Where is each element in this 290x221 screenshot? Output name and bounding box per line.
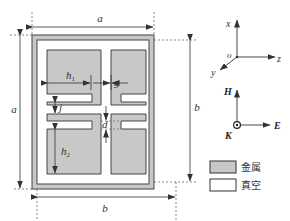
dimension-b-right: b (154, 40, 200, 182)
axis-label-y: y (210, 67, 216, 78)
coordinate-axes: x z y o (210, 18, 281, 78)
dimension-a-left: a (10, 35, 32, 189)
legend-label-metal: 金属 (241, 161, 261, 173)
field-vectors: H E K (223, 86, 281, 141)
label-b-right: b (194, 101, 200, 113)
diagram-canvas: a a b b h1 g j (0, 0, 290, 221)
field-label-k: K (224, 130, 233, 141)
legend: 金属 真空 (210, 161, 261, 191)
legend-swatch-metal (210, 161, 236, 173)
dimension-a-top: a (32, 12, 154, 35)
field-label-e: E (273, 120, 281, 131)
legend-label-vacuum: 真空 (241, 179, 261, 191)
field-label-h: H (223, 86, 233, 97)
label-a-left: a (11, 103, 17, 115)
label-b-bottom: b (102, 202, 108, 214)
unit-cell (32, 35, 154, 189)
label-g: g (114, 76, 120, 88)
label-d: d (102, 118, 108, 130)
axis-label-x: x (225, 18, 231, 29)
axis-label-z: z (276, 53, 281, 64)
legend-swatch-vacuum (210, 179, 236, 191)
axis-label-origin: o (227, 50, 232, 60)
label-a-top: a (97, 12, 103, 24)
